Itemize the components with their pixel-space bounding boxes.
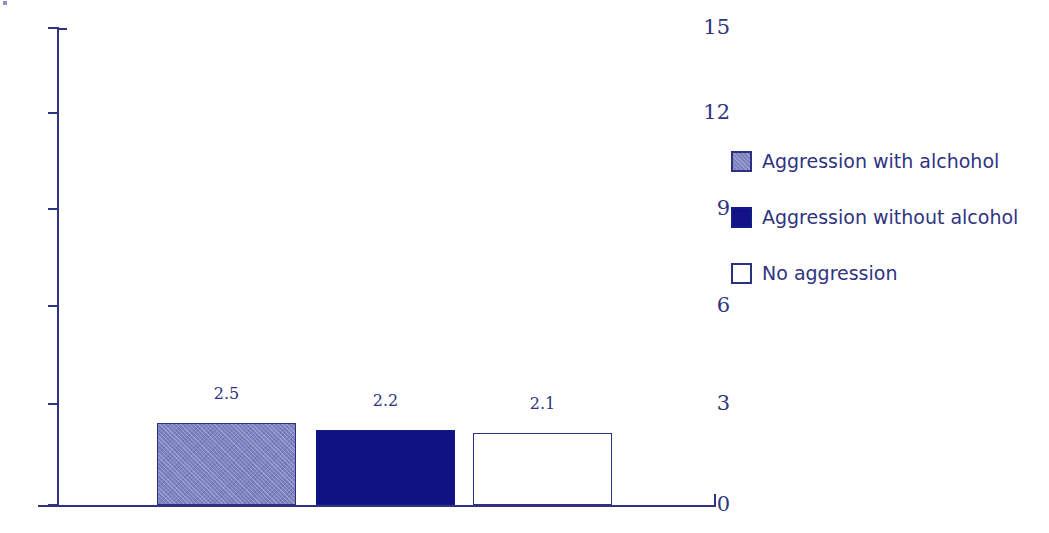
y-tick-15 [48, 27, 59, 29]
open-swatch-icon [731, 263, 752, 284]
y-tick-3 [48, 403, 59, 405]
plot-area: 15 12 9 6 3 0 2.5 2.2 2.1 [0, 0, 730, 533]
y-tick-label-15: 15 [696, 17, 730, 38]
bar-value-label-1: 2.5 [157, 386, 296, 402]
y-tick-12 [48, 112, 59, 114]
y-tick-label-6: 6 [696, 295, 730, 316]
y-tick-label-3: 3 [696, 393, 730, 414]
y-tick-6 [48, 305, 59, 307]
bar-value-label-3: 2.1 [473, 396, 612, 412]
solid-swatch-icon [731, 207, 752, 228]
y-tick-label-9: 9 [696, 198, 730, 219]
y-axis-line [57, 28, 59, 507]
y-tick-label-12: 12 [696, 102, 730, 123]
chart-legend: Aggression with alchohol Aggression with… [731, 150, 1041, 318]
y-tick-9 [48, 208, 59, 210]
y-tick-0 [48, 504, 59, 506]
legend-label-2: Aggression without alcohol [762, 207, 1018, 228]
hatch-swatch-icon [731, 151, 752, 172]
x-axis-line [38, 505, 716, 507]
bar-aggression-without-alcohol[interactable] [316, 430, 455, 505]
legend-label-1: Aggression with alchohol [762, 151, 999, 172]
legend-item-no-aggression[interactable]: No aggression [731, 262, 1041, 284]
bar-chart-figure: 15 12 9 6 3 0 2.5 2.2 2.1 Aggression wit… [0, 0, 1049, 533]
legend-item-aggression-without-alcohol[interactable]: Aggression without alcohol [731, 206, 1041, 228]
bar-value-label-2: 2.2 [316, 393, 455, 409]
legend-label-3: No aggression [762, 263, 897, 284]
bar-no-aggression[interactable] [473, 433, 612, 505]
legend-item-aggression-with-alcohol[interactable]: Aggression with alchohol [731, 150, 1041, 172]
bar-aggression-with-alcohol[interactable] [157, 423, 296, 505]
y-tick-label-0: 0 [696, 494, 730, 515]
